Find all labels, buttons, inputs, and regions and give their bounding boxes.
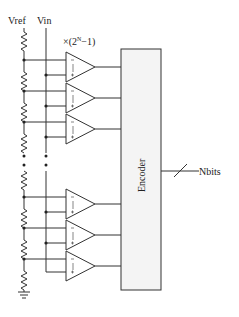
comparator	[22, 251, 121, 281]
vin-label: Vin	[37, 15, 51, 26]
output-bus	[161, 164, 199, 177]
comparator	[22, 52, 121, 82]
ellipsis-dots	[23, 155, 48, 167]
comparator	[22, 220, 121, 250]
encoder-label: Encoder	[136, 158, 147, 192]
vref-label: Vref	[8, 15, 26, 26]
flash-adc-diagram: Vref Vin ×(2N−1)	[0, 0, 239, 317]
comparator-array	[22, 52, 121, 281]
comparator	[22, 189, 121, 219]
comparator	[22, 114, 121, 144]
comparator	[22, 83, 121, 113]
vin-bus	[46, 28, 66, 272]
nbits-label: Nbits	[199, 166, 221, 177]
comparator-count-label: ×(2N−1)	[63, 36, 95, 48]
